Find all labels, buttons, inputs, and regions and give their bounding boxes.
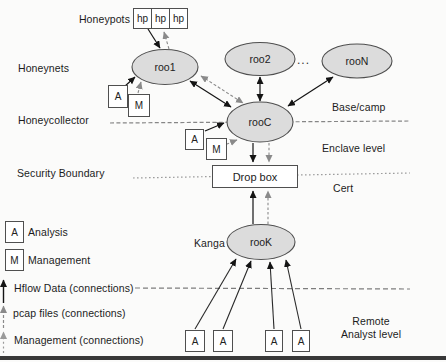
legend-management-letter: M (10, 255, 18, 266)
cert-label: Cert (333, 182, 353, 194)
arrow-hp-to-roo1 (148, 29, 160, 48)
legend-analysis-box: A (5, 221, 24, 243)
remote-analyst-box-2-label: A (220, 336, 227, 347)
remote-label: Remote (336, 315, 406, 327)
hp-box-3: hp (169, 8, 188, 29)
legend-management-label: Management (28, 254, 90, 266)
arrow-analyst1-to-rooK (195, 259, 236, 329)
hp-box-2: hp (151, 8, 170, 29)
arrow-analysis-to-rooC (205, 123, 224, 131)
analysis-box-roo1-label: A (115, 91, 122, 102)
management-box-roo1-label: M (135, 100, 143, 111)
legend-management-box: M (5, 249, 24, 271)
remote-analyst-box-4: A (292, 330, 310, 352)
honeypots-label: Honeypots (58, 13, 130, 25)
management-box-rooC-label: M (212, 144, 220, 155)
remote-analyst-box-3: A (265, 330, 283, 352)
dropbox-label: Drop box (233, 171, 278, 183)
honeycollector-label: Honeycollector (18, 114, 89, 126)
analysis-box-rooC: A (185, 129, 204, 150)
dropbox-node: Drop box (212, 165, 298, 188)
remote-analyst-box-1: A (185, 330, 205, 352)
node-roo1-label: roo1 (135, 61, 195, 73)
arrow-management-to-roo1-dashed (138, 82, 141, 93)
arrow-roo1-rooC (190, 81, 231, 107)
remote-analyst-box-3-label: A (271, 336, 278, 347)
hp-box-2-label: hp (155, 13, 166, 24)
arrow-roo1-to-hp-dashed (164, 32, 169, 49)
arrow-analyst3-to-rooK (270, 262, 274, 329)
analysis-box-roo1: A (108, 85, 128, 108)
remote-analyst-box-4-label: A (298, 336, 305, 347)
arrow-roo1-rooC-dashed (201, 76, 243, 103)
hp-box-1: hp (133, 8, 152, 29)
remote-analyst-boundary-line (135, 288, 410, 289)
base-camp-label: Base/camp (332, 101, 385, 113)
legend-pcap-label: pcap files (connections) (13, 307, 126, 319)
remote-analyst-box-2: A (213, 330, 233, 352)
remote-analyst-box-1-label: A (192, 336, 199, 347)
honeynets-label: Honeynets (18, 62, 69, 74)
enclave-level-label: Enclave level (322, 142, 385, 154)
legend-analysis-letter: A (11, 227, 18, 238)
analysis-box-rooC-label: A (191, 134, 198, 145)
architecture-diagram: hp hp hp A M A M Drop box roo1 roo2 rooN… (0, 0, 446, 362)
node-rooC-label: rooC (230, 116, 290, 128)
arrow-analyst4-to-rooK (286, 260, 301, 329)
bottom-border-bar (0, 356, 446, 360)
legend-analysis-label: Analysis (28, 226, 68, 238)
hp-box-1-label: hp (137, 13, 148, 24)
node-roo2-label: roo2 (230, 53, 290, 65)
management-box-roo1: M (128, 94, 150, 117)
ellipsis-roo-nodes: ... (297, 53, 310, 67)
arrow-rooN-rooC (288, 77, 333, 106)
legend-hflow-label: Hflow Data (connections) (14, 282, 134, 294)
legend-management-conn-label: Management (connections) (14, 334, 144, 346)
analyst-level-label: Analyst level (332, 328, 410, 340)
kanga-label: Kanga (194, 237, 225, 249)
arrow-analyst2-to-rooK (223, 261, 251, 329)
hp-box-3-label: hp (173, 13, 184, 24)
node-rooN-label: rooN (327, 55, 387, 67)
node-rooK-label: rooK (231, 236, 291, 248)
management-box-rooC: M (206, 138, 227, 160)
security-boundary-label: Security Boundary (17, 167, 105, 179)
